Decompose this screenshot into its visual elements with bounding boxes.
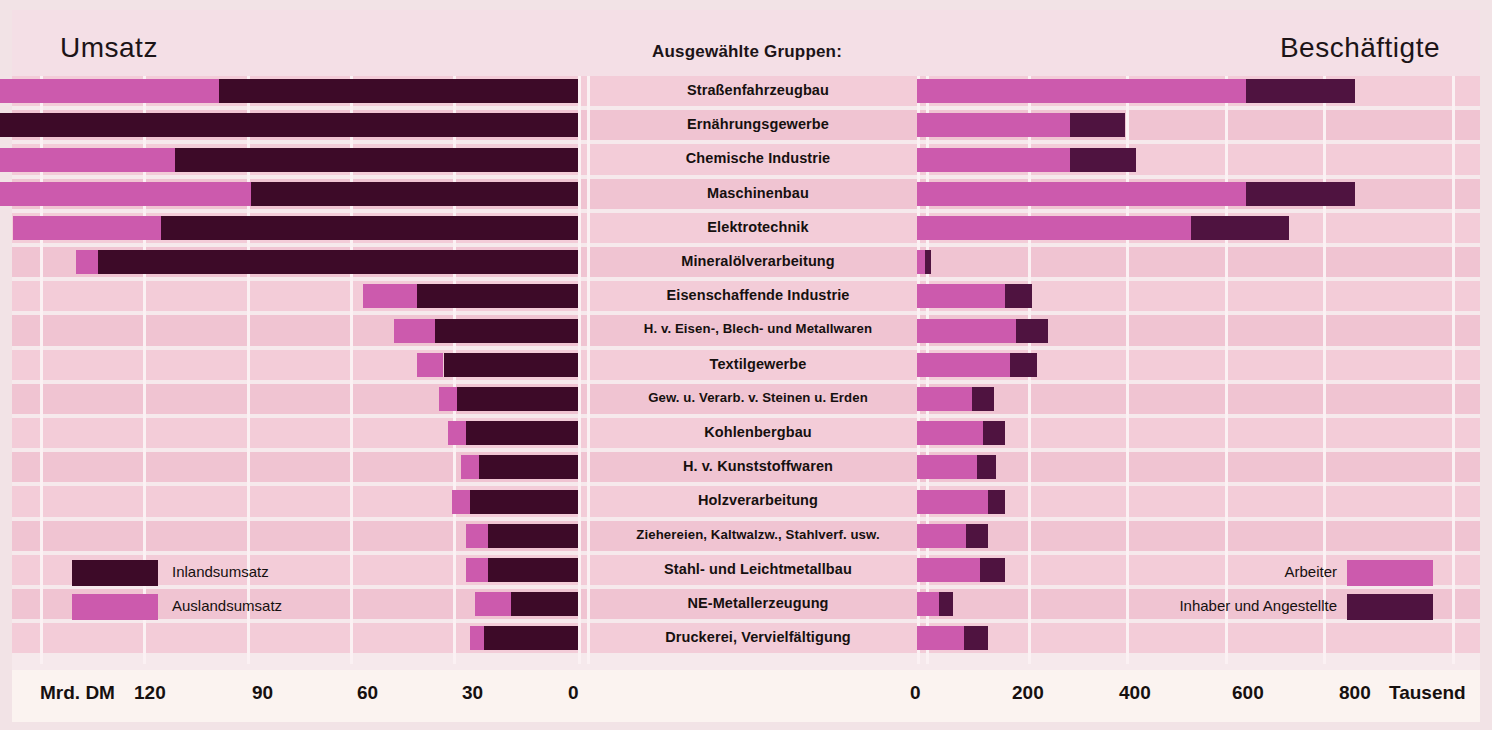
bar-segment-arbeiter — [917, 284, 1005, 308]
axis-tick-left-60: 60 — [357, 682, 378, 704]
bar-segment-auslandsumsatz — [394, 319, 434, 343]
bar-segment-inlandsumsatz — [457, 387, 578, 411]
bar-segment-inlandsumsatz — [175, 148, 579, 172]
legend-swatch-inhaber-und-angestellte — [1347, 594, 1433, 620]
category-label: Mineralölverarbeitung — [588, 253, 928, 269]
bar-segment-inhaber-angestellte — [1016, 319, 1049, 343]
bar-segment-auslandsumsatz — [439, 387, 457, 411]
chart-frame: Umsatz Ausgewählte Gruppen: Beschäftigte… — [12, 10, 1480, 722]
bar-segment-arbeiter — [917, 319, 1016, 343]
category-label: Ernährungsgewerbe — [588, 116, 928, 132]
bar-segment-inhaber-angestellte — [1010, 353, 1037, 377]
bar-segment-inhaber-angestellte — [939, 592, 953, 616]
axis-unit-right: Tausend — [1389, 682, 1466, 704]
bar-segment-inlandsumsatz — [470, 490, 578, 514]
category-label: Ziehereien, Kaltwalzw., Stahlverf. usw. — [588, 527, 928, 542]
bar-segment-auslandsumsatz — [461, 455, 479, 479]
chart-canvas: Umsatz Ausgewählte Gruppen: Beschäftigte… — [0, 0, 1492, 730]
bar-segment-inhaber-angestellte — [983, 421, 1005, 445]
bar-segment-inlandsumsatz — [444, 353, 579, 377]
category-label: Holzverarbeitung — [588, 492, 928, 508]
bar-segment-inlandsumsatz — [251, 182, 578, 206]
legend-label: Inhaber und Angestellte — [1012, 597, 1337, 614]
bar-segment-auslandsumsatz — [475, 592, 511, 616]
bar-segment-inlandsumsatz — [417, 284, 578, 308]
bar-segment-inlandsumsatz — [161, 216, 578, 240]
bar-segment-inlandsumsatz — [479, 455, 578, 479]
category-label: Gew. u. Verarb. v. Steinen u. Erden — [588, 390, 928, 405]
axis-tick-left-0: 0 — [568, 682, 579, 704]
bar-segment-auslandsumsatz — [470, 626, 483, 650]
category-label: Maschinenbau — [588, 185, 928, 201]
bar-segment-inhaber-angestellte — [988, 490, 1004, 514]
bar-segment-auslandsumsatz — [417, 353, 444, 377]
bar-segment-inhaber-angestellte — [972, 387, 994, 411]
bar-segment-inhaber-angestellte — [1191, 216, 1290, 240]
bar-segment-inhaber-angestellte — [966, 524, 988, 548]
bar-segment-auslandsumsatz — [466, 558, 488, 582]
bar-segment-arbeiter — [917, 216, 1191, 240]
axis-tick-right-200: 200 — [1012, 682, 1044, 704]
page-title-right: Beschäftigte — [1280, 32, 1440, 64]
bar-segment-auslandsumsatz — [0, 79, 219, 103]
legend-swatch-auslandsumsatz — [72, 594, 158, 620]
bar-segment-inhaber-angestellte — [964, 626, 989, 650]
axis-tick-left-120: 120 — [134, 682, 166, 704]
category-label: NE-Metallerzeugung — [588, 595, 928, 611]
category-label: Chemische Industrie — [588, 150, 928, 166]
bar-segment-arbeiter — [917, 148, 1070, 172]
axis-tick-right-800: 800 — [1339, 682, 1371, 704]
bar-segment-auslandsumsatz — [448, 421, 466, 445]
chart-header: Umsatz Ausgewählte Gruppen: Beschäftigte — [12, 10, 1480, 76]
bar-segment-auslandsumsatz — [363, 284, 417, 308]
legend-swatch-arbeiter — [1347, 560, 1433, 586]
axis-tick-right-600: 600 — [1232, 682, 1264, 704]
category-label: Textilgewerbe — [588, 356, 928, 372]
bar-segment-auslandsumsatz — [76, 250, 98, 274]
category-label: Straßenfahrzeugbau — [588, 82, 928, 98]
category-label: Kohlenbergbau — [588, 424, 928, 440]
axis-tick-right-0: 0 — [910, 682, 921, 704]
bar-segment-auslandsumsatz — [466, 524, 488, 548]
category-label: Stahl- und Leichtmetallbau — [588, 561, 928, 577]
bar-segment-inhaber-angestellte — [1005, 284, 1032, 308]
legend-label: Auslandsumsatz — [172, 597, 282, 614]
category-label: H. v. Kunststoffwaren — [588, 458, 928, 474]
legend-label: Arbeiter — [1012, 563, 1337, 580]
axis-tick-left-30: 30 — [462, 682, 483, 704]
category-label: Elektrotechnik — [588, 219, 928, 235]
bar-segment-inhaber-angestellte — [1070, 113, 1125, 137]
page-title-left: Umsatz — [60, 32, 158, 64]
bar-segment-inlandsumsatz — [219, 79, 578, 103]
bar-segment-inhaber-angestellte — [980, 558, 1005, 582]
category-label: Druckerei, Vervielfältigung — [588, 629, 928, 645]
legend-label: Inlandsumsatz — [172, 563, 269, 580]
bar-segment-auslandsumsatz — [0, 182, 251, 206]
bar-segment-inhaber-angestellte — [1246, 79, 1356, 103]
bar-segment-inlandsumsatz — [98, 250, 578, 274]
bar-segment-auslandsumsatz — [13, 216, 161, 240]
bar-segment-arbeiter — [917, 182, 1246, 206]
bar-segment-inlandsumsatz — [484, 626, 578, 650]
axis-tick-right-400: 400 — [1119, 682, 1151, 704]
page-subtitle: Ausgewählte Gruppen: — [652, 42, 842, 62]
bar-segment-inhaber-angestellte — [1246, 182, 1356, 206]
axis-unit-left: Mrd. DM — [40, 682, 115, 704]
bar-segment-inlandsumsatz — [488, 558, 578, 582]
bar-segment-auslandsumsatz — [452, 490, 470, 514]
bar-segment-inlandsumsatz — [435, 319, 578, 343]
axis-tick-left-90: 90 — [252, 682, 273, 704]
bar-segment-inhaber-angestellte — [977, 455, 996, 479]
legend-swatch-inlandsumsatz — [72, 560, 158, 586]
bar-segment-inlandsumsatz — [511, 592, 578, 616]
category-label: H. v. Eisen-, Blech- und Metallwaren — [588, 321, 928, 336]
bar-segment-inlandsumsatz — [466, 421, 578, 445]
axis-band: Mrd. DM12090603000200400600800Tausend — [12, 670, 1480, 722]
bar-segment-inlandsumsatz — [488, 524, 578, 548]
category-label: Eisenschaffende Industrie — [588, 287, 928, 303]
bar-segment-arbeiter — [917, 353, 1010, 377]
bar-segment-arbeiter — [917, 79, 1246, 103]
bar-segment-inlandsumsatz — [0, 113, 578, 137]
bar-segment-auslandsumsatz — [0, 148, 175, 172]
bar-segment-arbeiter — [917, 113, 1070, 137]
